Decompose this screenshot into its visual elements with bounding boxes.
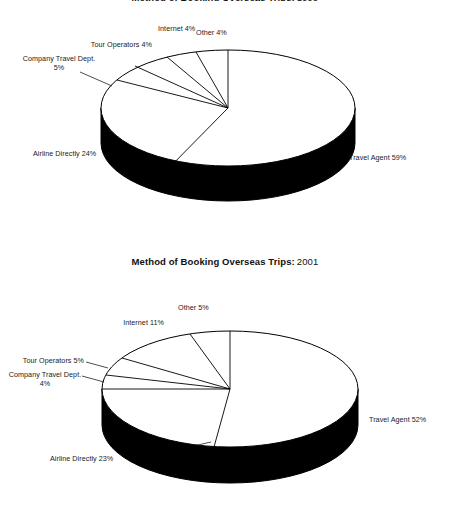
label-other: Other 5% bbox=[178, 303, 209, 312]
chart-1-title: Method of Booking Overseas Trips:1999 bbox=[0, 0, 450, 1]
label-internet: Internet 11% bbox=[0, 318, 164, 327]
label-company-travel-dept: Company Travel Dept.4% bbox=[2, 370, 88, 388]
chart-1-title-main: Method of Booking Overseas Trips: bbox=[132, 0, 295, 1]
chart-2-title-year: 2001 bbox=[297, 256, 319, 267]
label-company-line1: Company Travel Dept. bbox=[9, 370, 82, 379]
label-company-line2: 5% bbox=[54, 63, 65, 72]
chart-2-title-main: Method of Booking Overseas Trips: bbox=[132, 256, 295, 267]
label-travel-agent: Travel Agent 52% bbox=[369, 415, 426, 424]
pie-chart-1999: Internet 4% Other 4% Tour Operators 4% C… bbox=[0, 10, 450, 220]
label-airline-directly: Airline Directly 24% bbox=[33, 149, 96, 158]
label-travel-agent: Travel Agent 59% bbox=[349, 153, 406, 162]
label-airline-directly: Airline Directly 23% bbox=[50, 454, 113, 463]
pie-2001-top-face bbox=[102, 331, 358, 447]
label-tour-operators: Tour Operators 5% bbox=[0, 356, 84, 365]
pie-chart-2001: Other 5% Internet 11% Tour Operators 5% … bbox=[0, 292, 450, 522]
label-other: Other 4% bbox=[196, 28, 227, 37]
chart-2-title: Method of Booking Overseas Trips:2001 bbox=[0, 256, 450, 267]
label-company-travel-dept: Company Travel Dept.5% bbox=[16, 54, 102, 72]
label-internet: Internet 4% bbox=[158, 24, 195, 33]
label-company-line2: 4% bbox=[40, 379, 51, 388]
chart-1-title-year: 1999 bbox=[297, 0, 319, 1]
scanned-page: Method of Booking Overseas Trips:1999 bbox=[0, 0, 450, 530]
label-company-line1: Company Travel Dept. bbox=[23, 54, 96, 63]
label-tour-operators: Tour Operators 4% bbox=[0, 40, 152, 49]
